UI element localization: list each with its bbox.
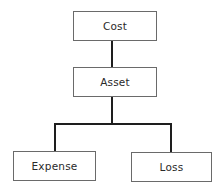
node-expense-label: Expense: [32, 160, 78, 172]
node-cost: Cost: [73, 11, 157, 41]
connector-asset-trunk: [111, 96, 113, 125]
node-expense: Expense: [13, 151, 96, 181]
connector-to-expense: [54, 123, 56, 152]
node-loss: Loss: [131, 152, 212, 182]
connector-to-loss: [170, 123, 172, 152]
node-cost-label: Cost: [103, 20, 127, 32]
connector-branch-horizontal: [54, 123, 172, 125]
node-asset-label: Asset: [100, 76, 130, 88]
node-loss-label: Loss: [160, 161, 184, 173]
hierarchy-diagram: Cost Asset Expense Loss: [0, 0, 223, 191]
node-asset: Asset: [73, 67, 157, 97]
connector-cost-asset: [111, 40, 113, 67]
